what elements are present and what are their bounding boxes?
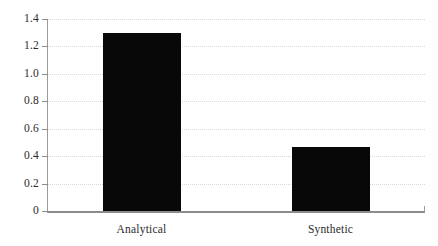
x-axis-line bbox=[47, 211, 425, 213]
bar-synthetic bbox=[292, 147, 370, 211]
y-axis-tick bbox=[42, 211, 48, 212]
category-label-analytical: Analytical bbox=[72, 224, 212, 236]
y-axis-tick-label: 1.4 bbox=[3, 13, 39, 25]
y-axis-tick bbox=[42, 129, 48, 130]
y-axis-tick bbox=[42, 74, 48, 75]
y-axis-tick bbox=[42, 156, 48, 157]
y-axis-tick bbox=[42, 184, 48, 185]
plot-area bbox=[47, 19, 425, 211]
y-axis-tick-label: 0.2 bbox=[3, 178, 39, 190]
gridline bbox=[47, 19, 425, 20]
category-label-synthetic: Synthetic bbox=[261, 224, 401, 236]
y-axis-tick-label: 0.8 bbox=[3, 95, 39, 107]
bar-analytical bbox=[103, 33, 181, 211]
y-axis-tick bbox=[42, 19, 48, 20]
y-axis-tick bbox=[42, 46, 48, 47]
y-axis-tick-label: 0.6 bbox=[3, 123, 39, 135]
y-axis-tick bbox=[42, 101, 48, 102]
y-axis-labels: 00.20.40.60.81.01.21.4 bbox=[0, 0, 39, 246]
y-axis-tick-label: 0 bbox=[3, 205, 39, 217]
y-axis-tick-label: 1.2 bbox=[3, 40, 39, 52]
bar-chart: 00.20.40.60.81.01.21.4 AnalyticalSynthet… bbox=[0, 0, 438, 246]
y-axis-tick-label: 0.4 bbox=[3, 150, 39, 162]
y-axis-tick-label: 1.0 bbox=[3, 68, 39, 80]
